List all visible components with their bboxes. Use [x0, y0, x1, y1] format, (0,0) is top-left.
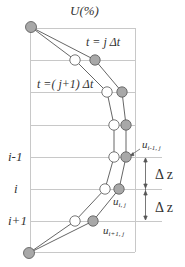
node-label-u-i-minus-1-j: ui-1, j	[142, 139, 161, 152]
white-node-marker	[109, 120, 119, 130]
row-label-i: i	[14, 182, 18, 195]
curve-label-t-j-plus-1: t =( j+1) Δt	[37, 78, 93, 90]
grey-node-marker	[90, 55, 100, 65]
axis-title-U-percent: U(%)	[70, 4, 99, 17]
white-node-marker	[70, 216, 80, 226]
arrow-up-icon	[144, 158, 147, 162]
white-node-marker	[100, 184, 110, 194]
label-subscript: i-1, j	[148, 144, 161, 152]
label-subscript: i+1, j	[109, 230, 125, 238]
grey-node-marker	[24, 248, 35, 259]
row-label-i-minus-1: i-1	[8, 150, 22, 163]
delta-z-label-lower: Δ z	[155, 201, 173, 215]
grey-node-marker	[26, 22, 37, 33]
grey-node-marker	[121, 120, 131, 130]
white-node-marker	[109, 152, 119, 162]
white-node-marker	[70, 55, 80, 65]
node-label-u-i-j: ui, j	[113, 196, 126, 209]
grey-node-marker	[114, 184, 124, 194]
delta-z-label-upper: Δ z	[155, 168, 173, 182]
node-label-u-i-plus-1-j: ui+1, j	[103, 225, 124, 238]
consolidation-diagram: U(%) t = j Δt t =( j+1) Δt i-1 i i+1 Δ z…	[0, 0, 185, 267]
arrow-down-icon	[144, 184, 147, 188]
row-label-i-plus-1: i+1	[8, 214, 27, 227]
arrow-up-icon	[144, 191, 147, 195]
arrow-down-icon	[144, 216, 147, 220]
nodes	[24, 22, 132, 259]
grey-node-marker	[121, 152, 131, 162]
curve-label-t-j: t = j Δt	[86, 36, 120, 48]
grey-node-marker	[88, 216, 98, 226]
label-subscript: i, j	[119, 201, 126, 209]
white-node-marker	[102, 87, 112, 97]
grey-node-marker	[117, 87, 127, 97]
